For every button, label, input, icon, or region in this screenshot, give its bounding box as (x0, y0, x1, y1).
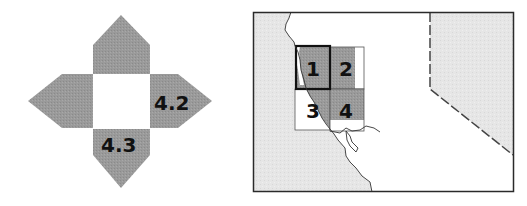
arm-left-button[interactable] (28, 74, 93, 128)
arm-bottom-label: 4.3 (101, 133, 136, 157)
tile-4-label: 4 (339, 99, 353, 123)
adjacent-sheets-navigator: 4.2 4.3 (28, 15, 212, 188)
diagram-canvas: 4.2 4.3 (0, 0, 527, 206)
locator-map: 1 2 3 4 (253, 12, 514, 192)
tile-2-label: 2 (339, 57, 353, 81)
arm-top-button[interactable] (93, 15, 150, 74)
arm-right-label: 4.2 (154, 91, 189, 115)
tile-3-label: 3 (306, 99, 320, 123)
tile-1-label: 1 (306, 57, 320, 81)
current-sheet-center (93, 74, 150, 129)
